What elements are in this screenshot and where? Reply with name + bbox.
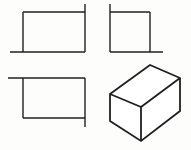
figure-canvas [0,0,191,150]
technical-drawing-figure [0,0,191,150]
